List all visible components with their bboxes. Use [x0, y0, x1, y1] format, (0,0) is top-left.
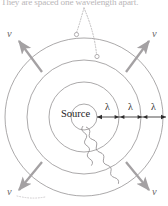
caption-leader-group: [77, 8, 97, 54]
wavefront-diagram: [0, 0, 168, 206]
velocity-arrow-group: [19, 41, 149, 190]
wavy-ray-secondary: [82, 126, 93, 166]
axis-tick-1-left: [115, 115, 119, 119]
wavelength-axis-group: [97, 115, 166, 119]
figure-canvas: They are spaced one wavelength apart.: [0, 0, 168, 206]
velocity-leader-bottom-left: [17, 196, 45, 198]
caption-leader-left: [77, 8, 85, 33]
axis-arrow-right: [161, 115, 166, 119]
axis-tick-1-right: [120, 115, 124, 119]
leader-endpoint-outer: [74, 32, 78, 36]
axis-arrow-left: [97, 115, 102, 119]
caption-leader-right: [84, 8, 97, 54]
axis-tick-2-right: [143, 115, 147, 119]
wavy-ray-group: [82, 126, 119, 184]
leader-endpoint-inner: [95, 54, 99, 58]
wavefront-circle-1: [71, 104, 97, 130]
